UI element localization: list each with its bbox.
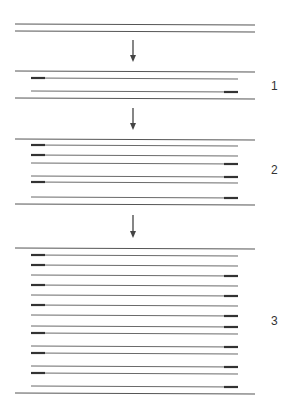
arrow-head bbox=[130, 231, 136, 238]
down-arrow-icon bbox=[130, 215, 136, 238]
strand-line bbox=[31, 91, 238, 92]
stage-1 bbox=[15, 71, 255, 99]
strand-line bbox=[31, 155, 238, 156]
boundary-line bbox=[15, 98, 255, 99]
stage-label-1: 1 bbox=[271, 80, 278, 92]
strand-line bbox=[31, 275, 238, 276]
strand-line bbox=[31, 353, 238, 354]
strand-line bbox=[31, 326, 238, 327]
boundary-line bbox=[15, 393, 255, 394]
strand-line bbox=[31, 373, 238, 374]
replication-diagram bbox=[0, 0, 291, 414]
stage-2 bbox=[15, 139, 255, 205]
boundary-line bbox=[15, 139, 255, 140]
strand-line bbox=[31, 333, 238, 334]
strand-line bbox=[31, 197, 238, 198]
arrow-head bbox=[130, 55, 136, 62]
strand-line bbox=[31, 295, 238, 296]
strand-line bbox=[31, 305, 238, 306]
initial-duplex bbox=[15, 24, 255, 32]
strand-line bbox=[31, 145, 238, 146]
strand-line bbox=[31, 255, 238, 256]
strand-line bbox=[31, 182, 238, 183]
strand-line bbox=[31, 346, 238, 347]
strand-line bbox=[31, 366, 238, 367]
strand-line bbox=[31, 78, 238, 79]
boundary-line bbox=[15, 204, 255, 205]
boundary-line bbox=[15, 71, 255, 72]
boundary-line bbox=[15, 248, 255, 249]
strand-line bbox=[31, 163, 238, 164]
stage-label-2: 2 bbox=[271, 164, 278, 176]
arrow-head bbox=[130, 123, 136, 130]
top-strand-line bbox=[15, 24, 255, 25]
down-arrow-icon bbox=[130, 40, 136, 62]
strand-line bbox=[31, 265, 238, 266]
strand-line bbox=[31, 176, 238, 177]
strand-line bbox=[31, 386, 238, 387]
strand-line bbox=[31, 285, 238, 286]
stage-3 bbox=[15, 248, 255, 394]
down-arrow-icon bbox=[130, 108, 136, 130]
strand-line bbox=[31, 315, 238, 316]
stage-label-3: 3 bbox=[271, 315, 278, 327]
top-strand-line bbox=[15, 31, 255, 32]
